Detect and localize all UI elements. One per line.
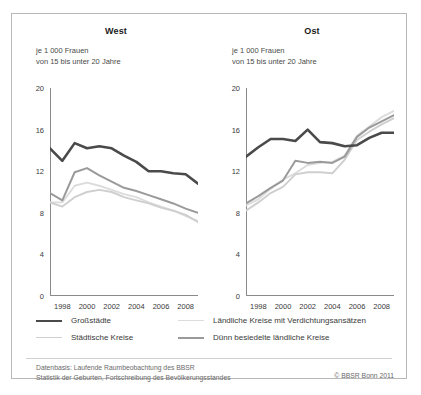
x-tick-label: 2002 bbox=[103, 302, 120, 311]
legend-label: Großstädte bbox=[71, 316, 111, 325]
plot-area-ost bbox=[246, 88, 394, 296]
y-tick-label: 4 bbox=[40, 250, 44, 259]
x-axis-labels-west: 199820002002200420062008 bbox=[50, 302, 198, 314]
legend-item[interactable]: Dünn besiedelte ländliche Kreise bbox=[178, 333, 330, 342]
chart-panels: West je 1 000 Frauen von 15 bis unter 20… bbox=[12, 14, 406, 314]
chart-svg bbox=[50, 88, 198, 296]
series-line bbox=[246, 118, 394, 211]
y-tick-label: 8 bbox=[40, 208, 44, 217]
chart-legend: GroßstädteStädtische KreiseLändliche Kre… bbox=[36, 316, 386, 356]
x-axis-labels-ost: 199820002002200420062008 bbox=[246, 302, 394, 314]
legend-label: Ländliche Kreise mit Verdichtungsansätze… bbox=[213, 316, 366, 325]
legend-line-icon bbox=[36, 337, 62, 338]
y-tick-label: 12 bbox=[232, 167, 240, 176]
footer-divider bbox=[26, 358, 392, 359]
x-tick-label: 2002 bbox=[299, 302, 316, 311]
x-tick-label: 2000 bbox=[79, 302, 96, 311]
chart-svg bbox=[246, 88, 394, 296]
series-line bbox=[246, 130, 394, 157]
series-line bbox=[246, 111, 394, 206]
legend-line-icon bbox=[178, 320, 204, 321]
legend-line-icon bbox=[178, 337, 204, 339]
x-tick-label: 2004 bbox=[324, 302, 341, 311]
x-tick-label: 2006 bbox=[349, 302, 366, 311]
legend-item[interactable]: Großstädte bbox=[36, 316, 111, 325]
panel-title-west: West bbox=[22, 26, 210, 36]
chart-panel-west: West je 1 000 Frauen von 15 bis unter 20… bbox=[12, 14, 210, 314]
unit-label-ost: je 1 000 Frauen von 15 bis unter 20 Jahr… bbox=[232, 46, 317, 67]
legend-label: Städtische Kreise bbox=[71, 333, 133, 342]
figure-frame: West je 1 000 Frauen von 15 bis unter 20… bbox=[11, 13, 407, 379]
legend-label: Dünn besiedelte ländliche Kreise bbox=[213, 333, 330, 342]
legend-item[interactable]: Städtische Kreise bbox=[36, 333, 133, 342]
x-tick-label: 2004 bbox=[128, 302, 145, 311]
y-tick-label: 0 bbox=[236, 292, 240, 301]
series-line bbox=[246, 115, 394, 203]
y-tick-label: 4 bbox=[236, 250, 240, 259]
y-tick-label: 0 bbox=[40, 292, 44, 301]
copyright-note: © BBSR Bonn 2011 bbox=[334, 372, 394, 379]
x-tick-label: 2006 bbox=[153, 302, 170, 311]
y-tick-label: 8 bbox=[236, 208, 240, 217]
x-tick-label: 2008 bbox=[177, 302, 194, 311]
y-tick-label: 12 bbox=[36, 167, 44, 176]
unit-label-west: je 1 000 Frauen von 15 bis unter 20 Jahr… bbox=[36, 46, 121, 67]
x-tick-label: 1998 bbox=[54, 302, 71, 311]
y-tick-label: 16 bbox=[36, 125, 44, 134]
y-tick-label: 20 bbox=[36, 84, 44, 93]
legend-line-icon bbox=[36, 320, 62, 322]
x-tick-label: 1998 bbox=[250, 302, 267, 311]
y-tick-label: 20 bbox=[232, 84, 240, 93]
panel-title-ost: Ost bbox=[218, 26, 406, 36]
y-tick-label: 16 bbox=[232, 125, 240, 134]
legend-item[interactable]: Ländliche Kreise mit Verdichtungsansätze… bbox=[178, 316, 366, 325]
x-tick-label: 2008 bbox=[373, 302, 390, 311]
y-axis-labels-west: 048121620 bbox=[12, 88, 46, 296]
axis-lines bbox=[51, 88, 199, 296]
chart-panel-ost: Ost je 1 000 Frauen von 15 bis unter 20 … bbox=[210, 14, 408, 314]
plot-area-west bbox=[50, 88, 198, 296]
y-axis-labels-ost: 048121620 bbox=[210, 88, 242, 296]
x-tick-label: 2000 bbox=[275, 302, 292, 311]
